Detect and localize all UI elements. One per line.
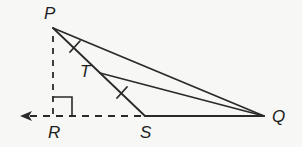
right-angle-marker <box>53 97 72 116</box>
label-T: T <box>80 62 92 81</box>
label-P: P <box>44 4 56 23</box>
geometry-diagram: P T R S Q <box>0 0 302 147</box>
label-Q: Q <box>272 107 285 126</box>
segment-TQ <box>100 73 264 116</box>
segment-PS <box>53 28 145 116</box>
label-R: R <box>48 123 60 142</box>
label-S: S <box>140 123 152 142</box>
